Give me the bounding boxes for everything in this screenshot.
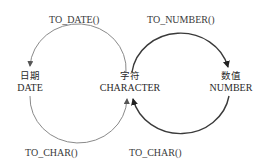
edge-number-to-char	[133, 96, 229, 134]
label-to-number: TO_NUMBER()	[147, 14, 215, 25]
node-character: 字符 CHARACTER	[94, 70, 166, 94]
label-number-to-char: TO_CHAR()	[129, 147, 182, 158]
node-date-en: DATE	[10, 82, 50, 94]
node-date-zh: 日期	[10, 70, 50, 82]
label-to-date: TO_DATE()	[49, 14, 99, 25]
label-date-to-char: TO_CHAR()	[25, 147, 78, 158]
node-number-zh: 数值	[206, 70, 256, 82]
edge-date-to-char	[30, 96, 127, 143]
edge-char-to-number	[132, 33, 228, 72]
node-number: 数值 NUMBER	[206, 70, 256, 94]
edge-char-to-date	[30, 24, 126, 72]
node-number-en: NUMBER	[206, 82, 256, 94]
node-character-en: CHARACTER	[94, 82, 166, 94]
node-character-zh: 字符	[94, 70, 166, 82]
node-date: 日期 DATE	[10, 70, 50, 94]
